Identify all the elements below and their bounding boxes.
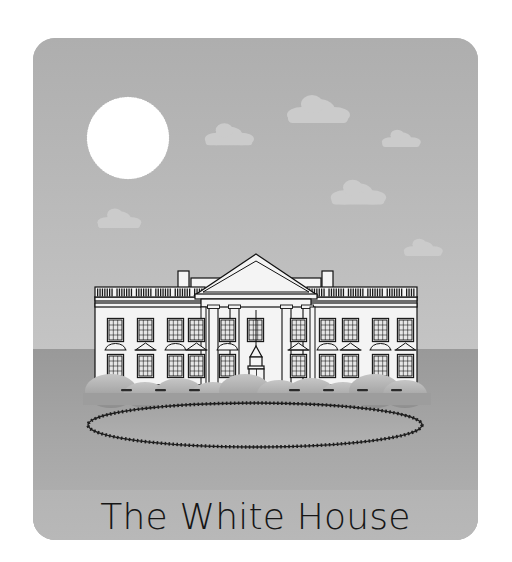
left-wing-cornice-2 — [95, 303, 205, 307]
window — [167, 318, 183, 341]
white-house-illustration-card: The White House — [33, 38, 478, 540]
window — [397, 354, 413, 377]
window — [342, 318, 358, 341]
window — [137, 354, 153, 377]
portico-pilaster — [310, 307, 315, 385]
window — [137, 318, 153, 341]
window — [290, 318, 306, 341]
window — [372, 318, 388, 341]
window — [290, 354, 306, 377]
caption-bar: The White House — [33, 493, 478, 540]
lawn-oval — [88, 403, 422, 447]
left-wing-cornice — [95, 297, 205, 301]
window — [247, 318, 263, 341]
window — [342, 354, 358, 377]
window — [219, 354, 235, 377]
window — [188, 354, 204, 377]
portico-column — [209, 307, 218, 385]
pediment-base — [195, 294, 317, 299]
white-house-scene — [33, 38, 478, 540]
window — [167, 354, 183, 377]
screenshot-root: The White House — [0, 0, 512, 562]
page-title: The White House — [100, 499, 410, 535]
window — [219, 318, 235, 341]
right-wing-cornice — [307, 297, 417, 301]
sun-icon — [87, 97, 169, 179]
window — [188, 318, 204, 341]
window — [397, 318, 413, 341]
window — [107, 318, 123, 341]
portico-column — [282, 307, 291, 385]
window — [319, 318, 335, 341]
right-wing-cornice-2 — [307, 303, 417, 307]
window — [319, 354, 335, 377]
